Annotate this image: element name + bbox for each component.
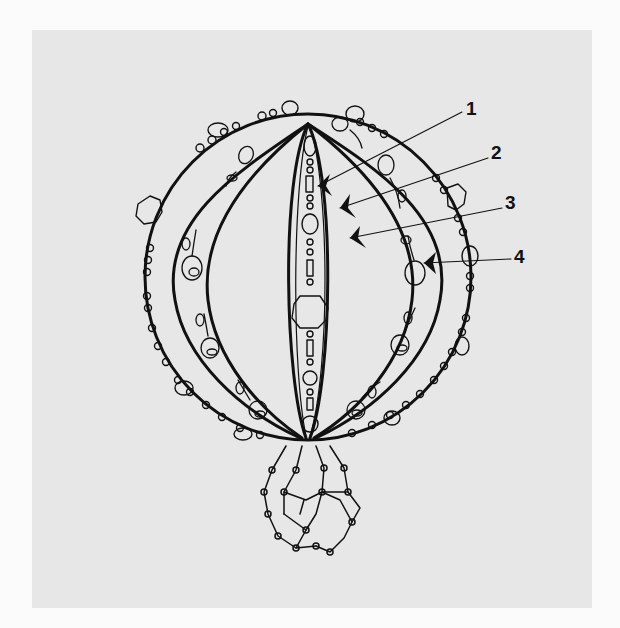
callout-label-4: 4 <box>514 247 525 266</box>
netted-bead-tassel <box>261 446 360 555</box>
callout-label-3: 3 <box>505 193 516 212</box>
rose <box>391 308 415 355</box>
callout-label-2: 2 <box>491 143 502 162</box>
rose <box>182 230 202 280</box>
rose-decorations <box>182 117 425 419</box>
callout-leaders <box>318 112 511 263</box>
callout-label-1: 1 <box>466 99 477 118</box>
hexagonal-crystal <box>292 296 328 328</box>
beaded-sphere-illustration <box>0 0 620 628</box>
